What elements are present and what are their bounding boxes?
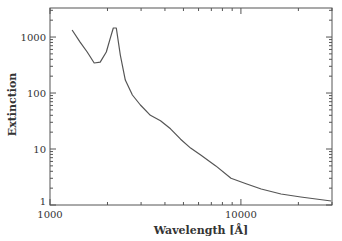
extinction-chart: 100010000 1101001000 Wavelength [Å] Exti… xyxy=(0,0,342,241)
plot-frame xyxy=(50,8,332,205)
axis-ticks xyxy=(50,8,332,205)
extinction-curve xyxy=(72,28,331,201)
y-tick-label: 10 xyxy=(33,144,46,155)
y-tick-labels: 1101001000 xyxy=(21,32,46,207)
y-tick-label: 1000 xyxy=(21,32,46,43)
x-tick-label: 1000 xyxy=(37,209,62,220)
x-axis-label: Wavelength [Å] xyxy=(153,223,249,237)
y-axis-label: Extinction xyxy=(6,73,19,137)
x-tick-label: 10000 xyxy=(225,209,257,220)
x-tick-labels: 100010000 xyxy=(37,209,257,220)
y-tick-label: 1 xyxy=(40,196,46,207)
y-tick-label: 100 xyxy=(27,88,46,99)
